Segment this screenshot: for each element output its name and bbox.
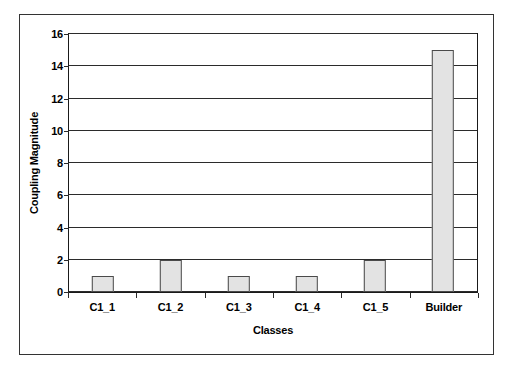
y-tick-label-10: 10 (51, 125, 63, 136)
bar-slot (137, 34, 205, 292)
bar-Builder[interactable] (432, 50, 454, 292)
bar-C1_3[interactable] (228, 276, 250, 292)
x-tick-label-C1_3: C1_3 (226, 301, 252, 313)
x-tick-mark-4 (341, 293, 342, 298)
bar-C1_4[interactable] (296, 276, 318, 292)
y-tick-label-6: 6 (57, 190, 63, 201)
x-tick-label-C1_2: C1_2 (158, 301, 184, 313)
bar-C1_5[interactable] (364, 260, 386, 292)
y-tick-label-16: 16 (51, 29, 63, 40)
x-tick-mark-2 (205, 293, 206, 298)
bar-slot (205, 34, 273, 292)
x-tick-label-C1_4: C1_4 (294, 301, 320, 313)
bar-slot (341, 34, 409, 292)
y-tick-label-14: 14 (51, 61, 63, 72)
y-tick-label-12: 12 (51, 93, 63, 104)
bar-slot (69, 34, 137, 292)
y-tick-label-2: 2 (57, 254, 63, 265)
bars-layer (69, 34, 477, 292)
x-tick-label-Builder: Builder (426, 301, 463, 313)
x-tick-label-C1_5: C1_5 (363, 301, 389, 313)
x-tick-label-C1_1: C1_1 (89, 301, 115, 313)
x-tick-mark-6 (478, 293, 479, 298)
bar-slot (409, 34, 477, 292)
x-tick-mark-1 (136, 293, 137, 298)
y-tick-label-4: 4 (57, 222, 63, 233)
x-tick-mark-3 (273, 293, 274, 298)
bar-C1_2[interactable] (160, 260, 182, 292)
y-axis-title: Coupling Magnitude (26, 33, 42, 293)
x-axis-title: Classes (68, 324, 478, 336)
x-tick-mark-0 (68, 293, 69, 298)
y-axis-title-text: Coupling Magnitude (28, 112, 40, 214)
plot-area: 0246810121416 (68, 33, 478, 293)
bar-C1_1[interactable] (92, 276, 114, 292)
x-axis-tick-marks (68, 293, 478, 299)
y-tick-label-8: 8 (57, 158, 63, 169)
x-tick-mark-5 (410, 293, 411, 298)
bar-slot (273, 34, 341, 292)
x-axis-tick-labels: C1_1C1_2C1_3C1_4C1_5Builder (68, 301, 478, 317)
y-tick-label-0: 0 (57, 287, 63, 298)
figure-frame: Coupling Magnitude 0246810121416 C1_1C1_… (19, 14, 494, 355)
